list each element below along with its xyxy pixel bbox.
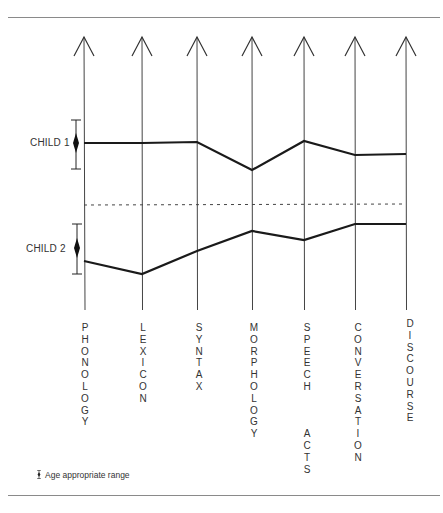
child-2-label: CHILD 2 xyxy=(26,243,66,254)
child-1-line xyxy=(84,141,406,170)
category-label-speech-acts: S P E E C H A C T S xyxy=(300,322,314,475)
category-text: P H O N O L O G Y xyxy=(81,322,89,427)
separator-dashed-line xyxy=(84,204,406,205)
category-label-phonology: P H O N O L O G Y xyxy=(78,322,92,428)
axis-line xyxy=(84,37,85,310)
axis-line xyxy=(406,37,407,310)
child-1-label: CHILD 1 xyxy=(30,137,70,148)
axis-line xyxy=(197,37,198,310)
category-label-lexicon: L E X I C O N xyxy=(136,322,150,405)
bottom-rule xyxy=(8,495,440,496)
axis-line xyxy=(355,37,356,310)
child-2-line xyxy=(84,224,406,274)
axis-line xyxy=(304,37,305,310)
category-text: S P E E C H A C T S xyxy=(303,322,310,475)
category-text: S Y N T A X xyxy=(195,322,202,392)
range-diamond-icon xyxy=(74,238,80,258)
category-label-morphology: M O R P H O L O G Y xyxy=(247,322,261,440)
top-rule xyxy=(8,17,440,18)
profile-chart xyxy=(0,0,443,513)
category-label-discourse: D I S C O U R S E xyxy=(403,318,417,424)
legend-text: Age appropriate range xyxy=(45,470,130,480)
category-label-conversation: C O N V E R S A T I O N xyxy=(351,322,365,464)
range-bar-icon xyxy=(36,470,42,479)
axis-line xyxy=(252,37,253,310)
category-label-syntax: S Y N T A X xyxy=(192,322,206,393)
category-text: M O R P H O L O G Y xyxy=(250,322,258,439)
axis-line xyxy=(142,37,143,310)
legend: Age appropriate range xyxy=(36,470,130,480)
category-text: L E X I C O N xyxy=(139,322,147,404)
range-diamond-icon xyxy=(73,133,79,153)
category-text: C O N V E R S A T I O N xyxy=(354,322,362,463)
category-text: D I S C O U R S E xyxy=(406,318,414,423)
